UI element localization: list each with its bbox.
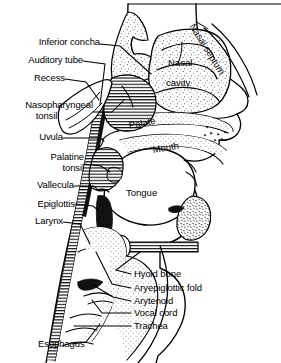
label-trachea: Trachea <box>134 321 168 332</box>
label-hyoid-bone: Hyoid bone <box>134 269 181 280</box>
label-larynx: Larynx <box>0 216 63 227</box>
label-inferior-concha: Inferior concha <box>0 37 100 48</box>
label-uvula: Uvula <box>0 132 63 143</box>
label-auditory-tube: Auditory tube <box>0 55 83 66</box>
label-arytenoid: Arytenoid <box>134 296 173 307</box>
anatomy-figure: Inferior concha Auditory tube Recess Nas… <box>0 0 281 363</box>
label-palatine-tonsil-line1: Palatine <box>0 152 84 163</box>
label-aryepiglottic-fold: Aryepiglottic fold <box>134 283 202 294</box>
label-vallecula: Vallecula <box>0 180 74 191</box>
label-nasal-cavity-line2: cavity <box>166 78 190 89</box>
label-tongue: Tongue <box>126 188 157 199</box>
label-vocal-cord: Vocal cord <box>134 308 177 319</box>
label-nasopharyngeal-tonsil-line1: Nasopharyngeal <box>0 100 93 111</box>
label-nasopharyngeal-tonsil-line2: tonsil <box>0 111 93 122</box>
label-recess: Recess <box>0 73 65 84</box>
label-nasal-cavity-line1: Nasal <box>168 58 192 69</box>
label-palatine-tonsil-line2: tonsil <box>0 163 84 174</box>
label-esophagus: Esophagus <box>38 339 85 350</box>
label-epiglottis: Epiglottis <box>0 199 75 210</box>
